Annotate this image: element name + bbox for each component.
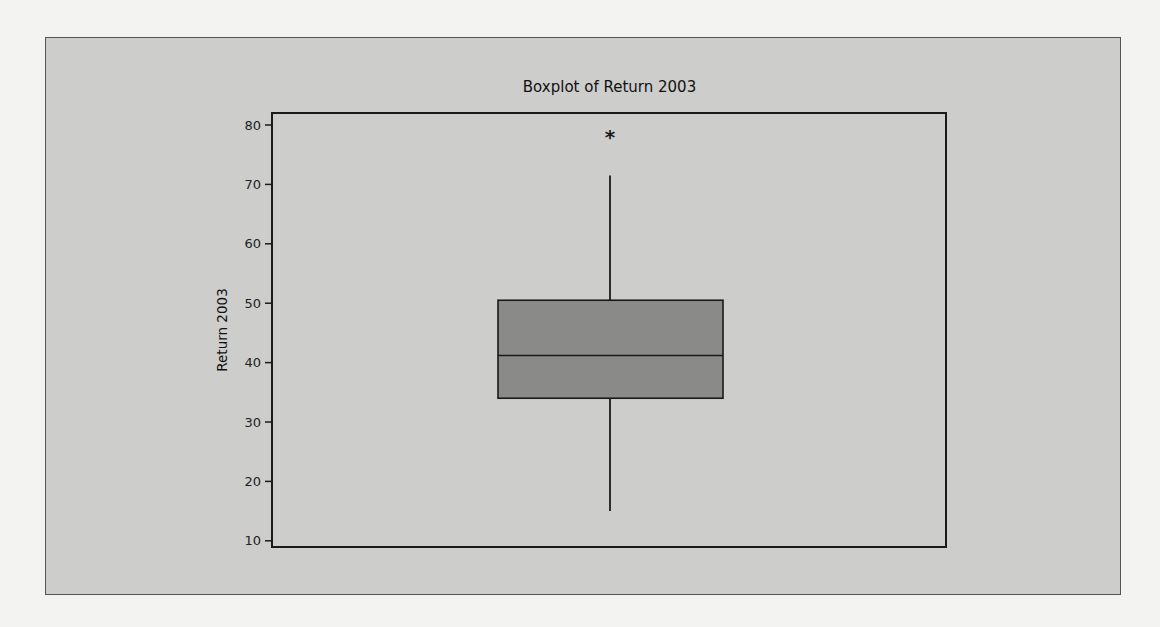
y-tick-label: 60: [244, 236, 261, 251]
y-tick-label: 50: [244, 296, 261, 311]
y-tick-label: 40: [244, 355, 261, 370]
iqr-box: [498, 300, 723, 398]
box-group: *: [498, 125, 723, 511]
y-tick-label: 80: [244, 118, 261, 133]
y-tick-label: 70: [244, 177, 261, 192]
y-axis: 1020304050607080: [244, 118, 272, 549]
y-tick-label: 10: [244, 533, 261, 548]
outlier-marker: *: [605, 125, 616, 149]
y-tick-label: 20: [244, 474, 261, 489]
y-tick-label: 30: [244, 415, 261, 430]
boxplot-svg: 1020304050607080 *: [0, 0, 1160, 627]
